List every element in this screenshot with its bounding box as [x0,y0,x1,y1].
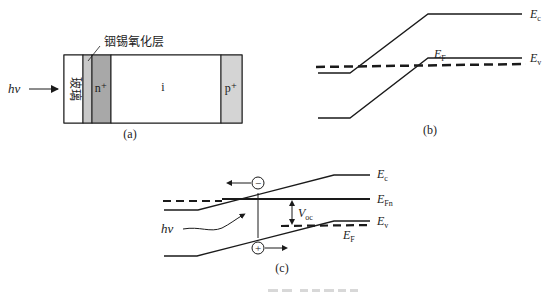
panel-c-band-diagram-illuminated: Voc − + hν Ec EFn Ev EF (c) [161,167,393,275]
conduction-band-c [164,175,370,210]
p-plus-label: p⁺ [225,81,237,95]
caption-b: (b) [423,123,437,137]
glass-label: 玻璃 [68,77,82,101]
photon-label: hν [161,221,174,236]
efn-label: EFn [376,192,393,208]
pin-solar-cell-diagram: 玻璃 n⁺ i p⁺ 铟锡氧化层 hν (a) Ec Ev EF (b) Voc… [0,0,554,292]
caption-a: (a) [123,127,136,141]
ev-label-c: Ev [376,214,388,230]
layer-intrinsic [111,55,221,123]
hole-symbol: + [255,242,261,254]
panel-b-band-diagram-dark: Ec Ev EF (b) [316,7,541,137]
ev-label-b: Ev [529,51,541,67]
ito-label: 铟锡氧化层 [104,34,164,49]
ec-label-b: Ec [529,7,541,23]
incident-light-label: hν [8,81,21,96]
n-plus-label: n⁺ [95,81,107,95]
voc-label: Voc [298,206,313,222]
fermi-level-b [316,64,526,67]
caption-c: (c) [275,261,288,275]
ef-label-b: EF [433,47,446,63]
ef-label-c: EF [342,228,355,244]
layer-ito [83,55,92,123]
panel-a-device-structure: 玻璃 n⁺ i p⁺ 铟锡氧化层 hν (a) [8,34,242,141]
ec-label-c: Ec [376,167,388,183]
electron-symbol: − [255,177,261,189]
fermi-level-c-right [281,225,372,226]
photon-arrow [183,215,243,230]
